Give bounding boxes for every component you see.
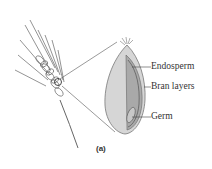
label-germ: Germ [151, 112, 173, 122]
figure-caption: (a) [96, 145, 106, 153]
wheat-kernel-figure: Endosperm Bran layers Germ (a) [0, 0, 212, 169]
label-endosperm: Endosperm [151, 62, 194, 72]
wheat-stalk-illustration [15, 20, 78, 148]
label-bran-layers: Bran layers [151, 82, 195, 92]
kernel-cross-section [105, 37, 145, 134]
